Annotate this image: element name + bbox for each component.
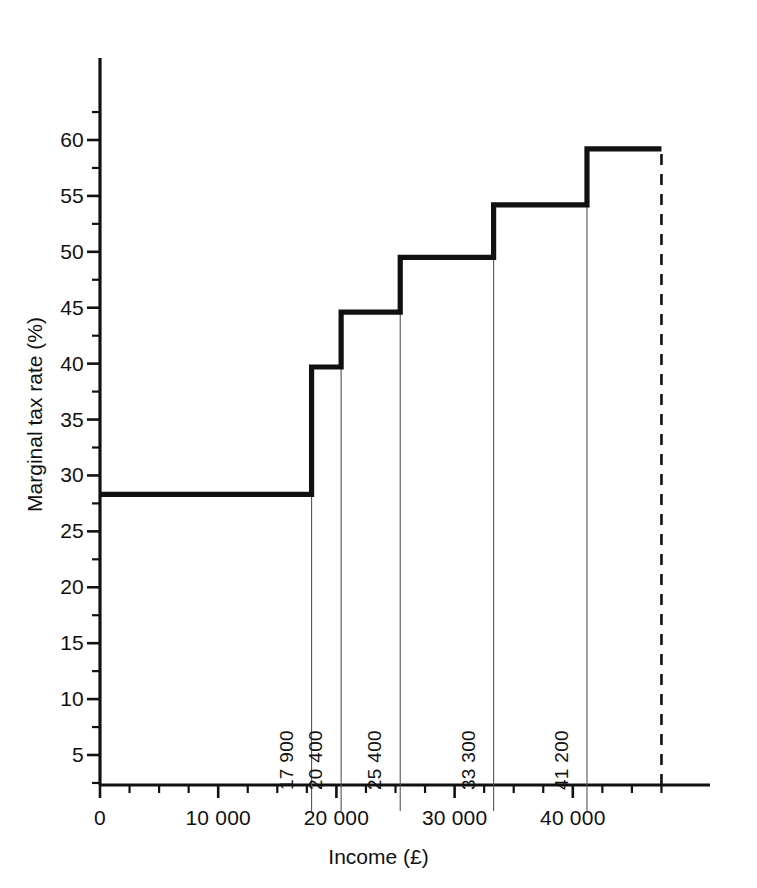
y-axis-title: Marginal tax rate (%) <box>24 205 45 625</box>
chart-figure: 51015202530354045505560 010 00020 00030 … <box>0 0 757 888</box>
threshold-label: 41 200 <box>552 730 571 790</box>
threshold-label: 17 900 <box>277 730 296 790</box>
threshold-label: 20 400 <box>306 730 325 790</box>
threshold-label-layer: 17 90020 40025 40033 30041 200 <box>0 0 757 888</box>
threshold-label: 33 300 <box>459 730 478 790</box>
x-axis-title: Income (£) <box>0 846 757 867</box>
threshold-label: 25 400 <box>365 730 384 790</box>
